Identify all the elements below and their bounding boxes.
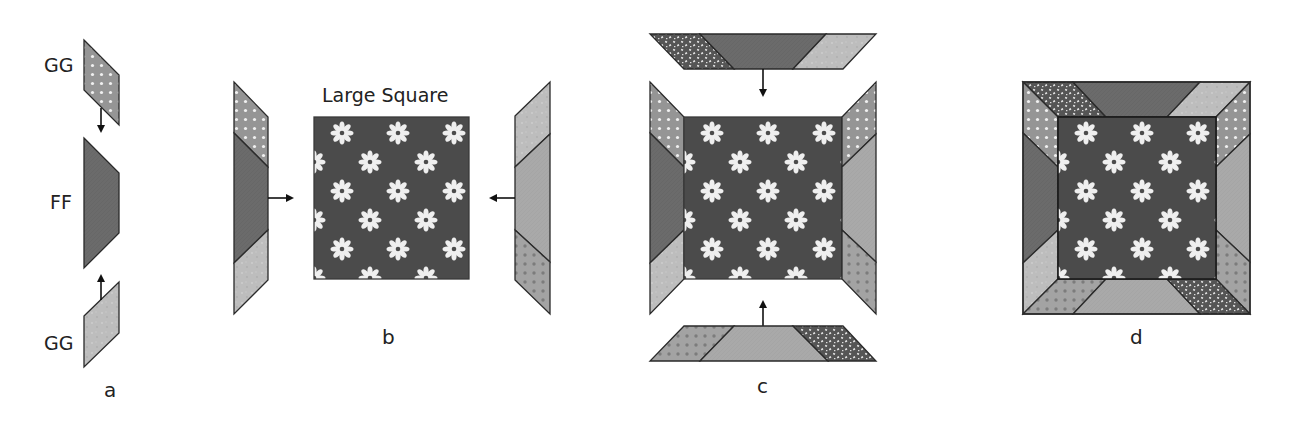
quilt-assembly-diagram	[0, 0, 1302, 426]
step-d-group	[1023, 82, 1250, 314]
right-side-strip	[842, 82, 876, 314]
step-c-label: c	[757, 376, 768, 396]
step-d-label: d	[1130, 327, 1143, 347]
top-strip	[650, 34, 876, 69]
step-b-label: b	[382, 327, 395, 347]
left-side-strip	[234, 82, 268, 314]
gg-bottom-label: GG	[44, 334, 73, 353]
step-a-label: a	[104, 380, 116, 400]
gg-top-label: GG	[44, 56, 73, 75]
step-c-group	[650, 34, 876, 361]
large-square	[314, 117, 469, 279]
ff-label: FF	[50, 193, 72, 212]
bottom-strip	[650, 326, 876, 361]
step-a-group	[84, 40, 119, 367]
right-side-strip	[515, 82, 550, 314]
large-square	[684, 117, 842, 279]
ff-piece	[84, 138, 119, 268]
large-square-label: Large Square	[322, 86, 448, 105]
step-b-group	[234, 82, 550, 314]
large-square	[1058, 117, 1216, 279]
left-side-strip	[650, 82, 684, 314]
